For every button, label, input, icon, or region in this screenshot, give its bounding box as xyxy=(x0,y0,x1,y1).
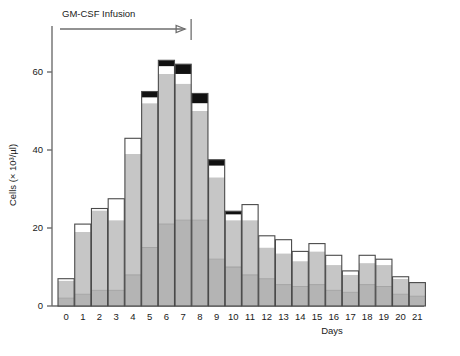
bar-stack xyxy=(175,64,191,306)
bar-stack xyxy=(225,211,241,306)
x-tick-label: 12 xyxy=(262,311,273,322)
bar-segment xyxy=(242,220,258,275)
bar-segment xyxy=(275,240,291,254)
y-tick-label: 0 xyxy=(38,300,43,311)
bar-segment xyxy=(175,84,191,221)
bar-segment xyxy=(209,259,225,306)
bar-stack xyxy=(326,255,342,306)
x-tick-label: 16 xyxy=(328,311,339,322)
bar-segment xyxy=(409,283,425,297)
y-tick-label: 20 xyxy=(32,222,43,233)
bar-segment xyxy=(259,248,275,279)
bar-segment xyxy=(376,265,392,286)
bar-segment xyxy=(342,275,358,293)
bar-segment xyxy=(192,111,208,220)
bar-segment xyxy=(242,205,258,221)
bar-segment xyxy=(175,74,191,84)
right-arrow-icon xyxy=(60,25,185,32)
bar-segment xyxy=(158,74,174,224)
x-axis-title: Days xyxy=(321,325,343,336)
x-tick-label: 14 xyxy=(295,311,306,322)
bar-segment xyxy=(359,285,375,306)
x-tick-label: 2 xyxy=(97,311,102,322)
bar-segment xyxy=(209,160,225,166)
bar-segment xyxy=(292,251,308,261)
bar-segment xyxy=(125,275,141,306)
bar-stack xyxy=(376,259,392,306)
bar-segment xyxy=(58,298,74,306)
bar-stack xyxy=(409,283,425,306)
x-tick-label: 5 xyxy=(147,311,152,322)
y-tick-label: 60 xyxy=(32,66,43,77)
x-tick-label: 3 xyxy=(114,311,119,322)
bar-stack xyxy=(209,160,225,306)
bar-segment xyxy=(309,251,325,284)
bar-segment xyxy=(342,271,358,275)
x-tick-label: 18 xyxy=(362,311,373,322)
bar-stack xyxy=(292,251,308,306)
bar-segment xyxy=(275,253,291,284)
bar-segment xyxy=(125,154,141,275)
bar-segment xyxy=(209,177,225,259)
bar-stack xyxy=(158,60,174,306)
bar-segment xyxy=(359,255,375,263)
bar-chart-canvas: GM-CSF Infusion 0204060 0123456789101112… xyxy=(0,0,460,356)
y-axis-ticks: 0204060 xyxy=(32,66,52,311)
bar-segment xyxy=(108,199,124,220)
x-axis-ticks: 0123456789101112131415161718192021 xyxy=(63,311,422,322)
bar-segment xyxy=(142,97,158,103)
bar-segment xyxy=(91,290,107,306)
bar-segment xyxy=(142,92,158,98)
bar-stack xyxy=(309,244,325,306)
x-tick-label: 10 xyxy=(228,311,239,322)
x-tick-label: 19 xyxy=(379,311,390,322)
x-tick-label: 8 xyxy=(197,311,202,322)
bar-segment xyxy=(192,93,208,103)
bar-segment xyxy=(209,166,225,178)
y-axis-title: Cells (× 10³/µl) xyxy=(7,144,18,206)
bar-segment xyxy=(259,279,275,306)
bar-segment xyxy=(158,60,174,66)
bars-layer xyxy=(58,60,425,306)
x-tick-label: 4 xyxy=(130,311,135,322)
x-tick-label: 6 xyxy=(164,311,169,322)
bar-segment xyxy=(192,103,208,111)
bar-segment xyxy=(309,244,325,252)
x-tick-label: 15 xyxy=(312,311,323,322)
bar-stack xyxy=(125,138,141,306)
x-tick-label: 7 xyxy=(181,311,186,322)
x-tick-label: 21 xyxy=(412,311,423,322)
bar-segment xyxy=(292,287,308,307)
bar-segment xyxy=(326,290,342,306)
x-tick-label: 17 xyxy=(345,311,356,322)
x-tick-label: 20 xyxy=(395,311,406,322)
bar-segment xyxy=(175,220,191,306)
bar-segment xyxy=(75,294,91,306)
bar-stack xyxy=(58,279,74,306)
bar-segment xyxy=(259,236,275,248)
bar-stack xyxy=(242,205,258,306)
bar-stack xyxy=(192,93,208,306)
bar-stack xyxy=(142,92,158,307)
bar-segment xyxy=(142,103,158,247)
bar-segment xyxy=(142,248,158,307)
bar-segment xyxy=(225,267,241,306)
x-tick-label: 1 xyxy=(80,311,85,322)
bar-stack xyxy=(91,209,107,307)
bar-stack xyxy=(259,236,275,306)
x-tick-label: 9 xyxy=(214,311,219,322)
bar-segment xyxy=(326,265,342,290)
bar-segment xyxy=(108,220,124,290)
bar-segment xyxy=(409,296,425,306)
bar-segment xyxy=(275,285,291,306)
bar-segment xyxy=(309,285,325,306)
bar-segment xyxy=(158,66,174,74)
bar-segment xyxy=(158,224,174,306)
bar-stack xyxy=(359,255,375,306)
bar-segment xyxy=(108,290,124,306)
bar-stack xyxy=(342,271,358,306)
bar-segment xyxy=(292,261,308,286)
x-tick-label: 0 xyxy=(63,311,68,322)
x-tick-label: 11 xyxy=(245,311,255,322)
bar-segment xyxy=(58,281,74,299)
